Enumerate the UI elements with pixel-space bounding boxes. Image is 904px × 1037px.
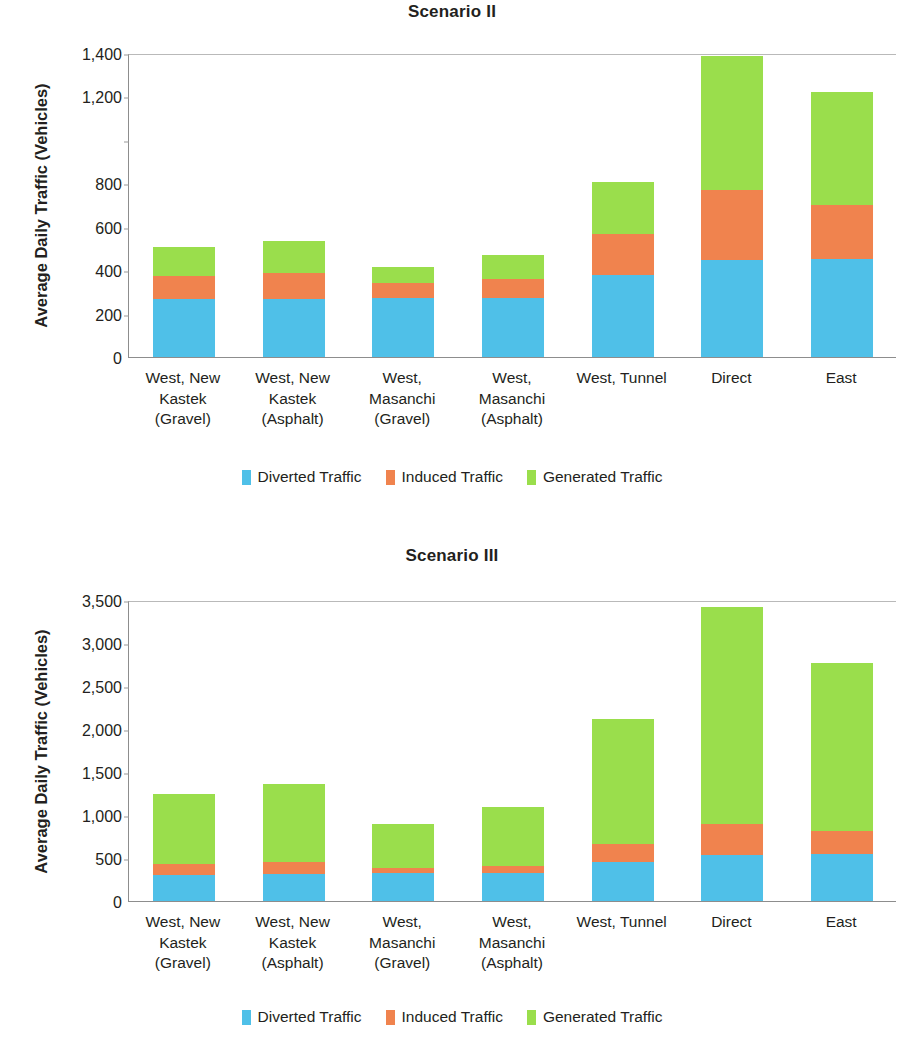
bar-group[interactable]: [129, 602, 239, 901]
bar-group[interactable]: [239, 602, 349, 901]
bar-segment-induced[interactable]: [811, 205, 873, 259]
legend-item-diverted[interactable]: Diverted Traffic: [242, 468, 362, 486]
stacked-bar[interactable]: [153, 247, 215, 357]
stacked-bar[interactable]: [153, 794, 215, 901]
bar-group[interactable]: [458, 55, 568, 357]
bar-segment-generated[interactable]: [263, 784, 325, 862]
stacked-bar[interactable]: [592, 182, 654, 357]
bar-segment-generated[interactable]: [592, 182, 654, 234]
bar-segment-diverted[interactable]: [153, 875, 215, 901]
bar-segment-generated[interactable]: [701, 607, 763, 824]
chart-title: Scenario III: [0, 546, 904, 566]
legend-label: Induced Traffic: [402, 1008, 503, 1026]
plot-area: 05001,0001,5002,0002,5003,0003,500: [128, 601, 896, 902]
bar-segment-diverted[interactable]: [701, 855, 763, 901]
bar-group[interactable]: [568, 602, 678, 901]
bar-segment-diverted[interactable]: [263, 874, 325, 901]
stacked-bar[interactable]: [482, 807, 544, 901]
bar-segment-diverted[interactable]: [592, 275, 654, 358]
bar-group[interactable]: [678, 55, 788, 357]
bar-segment-induced[interactable]: [701, 190, 763, 261]
bar-segment-diverted[interactable]: [811, 259, 873, 357]
bar-group[interactable]: [348, 602, 458, 901]
bar-segment-diverted[interactable]: [372, 298, 434, 357]
bar-segment-diverted[interactable]: [372, 873, 434, 901]
bar-segment-generated[interactable]: [153, 247, 215, 275]
bar-group[interactable]: [787, 602, 897, 901]
bar-segment-generated[interactable]: [372, 824, 434, 868]
x-axis-tick-label-line: West,: [347, 912, 457, 933]
figure-page: Scenario IIAverage Daily Traffic (Vehicl…: [0, 0, 904, 1037]
bar-segment-generated[interactable]: [701, 56, 763, 190]
stacked-bar[interactable]: [482, 255, 544, 357]
stacked-bar[interactable]: [263, 784, 325, 901]
bar-segment-induced[interactable]: [482, 866, 544, 873]
bar-segment-induced[interactable]: [153, 864, 215, 875]
bar-segment-diverted[interactable]: [482, 298, 544, 357]
y-axis-title: Average Daily Traffic (Vehicles): [32, 601, 51, 901]
x-axis-tick-label-line: (Gravel): [347, 953, 457, 974]
x-axis-tick-label-line: West, New: [128, 368, 238, 389]
y-axis-tick-label: 600: [95, 220, 122, 238]
legend-item-diverted[interactable]: Diverted Traffic: [242, 1008, 362, 1026]
stacked-bar[interactable]: [372, 267, 434, 357]
bar-segment-diverted[interactable]: [701, 260, 763, 357]
legend-swatch-icon: [527, 470, 536, 485]
bar-segment-diverted[interactable]: [482, 873, 544, 901]
bar-segment-induced[interactable]: [263, 273, 325, 299]
bar-segment-generated[interactable]: [482, 807, 544, 866]
legend-item-generated[interactable]: Generated Traffic: [527, 468, 662, 486]
y-axis-tick-label: 3,500: [82, 593, 122, 611]
bar-segment-induced[interactable]: [263, 862, 325, 874]
bar-group[interactable]: [129, 55, 239, 357]
x-axis-tick-label: West, Tunnel: [567, 912, 677, 933]
bar-segment-generated[interactable]: [811, 92, 873, 205]
bar-group[interactable]: [568, 55, 678, 357]
bar-segment-diverted[interactable]: [811, 854, 873, 901]
stacked-bar[interactable]: [263, 241, 325, 357]
bar-segment-induced[interactable]: [811, 831, 873, 855]
bar-segment-generated[interactable]: [263, 241, 325, 274]
bar-segment-diverted[interactable]: [263, 299, 325, 357]
stacked-bar[interactable]: [811, 92, 873, 357]
bar-segment-generated[interactable]: [153, 794, 215, 864]
x-axis-tick-label-line: West,: [457, 368, 567, 389]
legend-label: Diverted Traffic: [258, 1008, 362, 1026]
legend-item-induced[interactable]: Induced Traffic: [386, 468, 503, 486]
bar-group[interactable]: [458, 602, 568, 901]
bar-segment-induced[interactable]: [592, 844, 654, 862]
x-axis-tick-label-line: Masanchi: [347, 389, 457, 410]
plot-area: 02004006008001,2001,400: [128, 54, 896, 358]
bar-segment-induced[interactable]: [592, 234, 654, 274]
legend-swatch-icon: [386, 470, 395, 485]
bar-segment-generated[interactable]: [372, 267, 434, 283]
x-axis-tick-label-line: West,: [457, 912, 567, 933]
stacked-bar[interactable]: [811, 663, 873, 901]
bar-segment-induced[interactable]: [153, 276, 215, 300]
bar-group[interactable]: [678, 602, 788, 901]
stacked-bar[interactable]: [372, 824, 434, 901]
legend-item-generated[interactable]: Generated Traffic: [527, 1008, 662, 1026]
legend-label: Diverted Traffic: [258, 468, 362, 486]
bar-segment-generated[interactable]: [482, 255, 544, 279]
bar-segment-induced[interactable]: [372, 283, 434, 298]
chart-title: Scenario II: [0, 2, 904, 22]
stacked-bar[interactable]: [701, 56, 763, 357]
stacked-bar[interactable]: [701, 607, 763, 901]
bar-series-container: [129, 55, 896, 357]
bar-segment-induced[interactable]: [701, 824, 763, 855]
bar-group[interactable]: [348, 55, 458, 357]
stacked-bar[interactable]: [592, 719, 654, 901]
bar-segment-generated[interactable]: [811, 663, 873, 831]
chart-scenario-2: Scenario IIAverage Daily Traffic (Vehicl…: [0, 0, 904, 517]
x-axis-tick-label-line: Masanchi: [347, 933, 457, 954]
bar-segment-diverted[interactable]: [153, 299, 215, 357]
bar-segment-generated[interactable]: [592, 719, 654, 844]
x-axis-tick-label-line: West, New: [238, 368, 348, 389]
x-axis-tick-label-line: West, New: [238, 912, 348, 933]
bar-segment-induced[interactable]: [482, 279, 544, 299]
bar-group[interactable]: [239, 55, 349, 357]
bar-segment-diverted[interactable]: [592, 862, 654, 901]
legend-item-induced[interactable]: Induced Traffic: [386, 1008, 503, 1026]
bar-group[interactable]: [787, 55, 897, 357]
